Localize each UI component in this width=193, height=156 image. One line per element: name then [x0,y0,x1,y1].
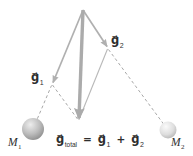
g2-subscript: 2 [120,42,124,49]
equals-sign: = [83,133,92,145]
parallelogram-side-left [53,85,78,119]
vector-g1 [53,10,83,83]
m2-subscript: 2 [181,143,185,151]
label-g1: g⃗1 [31,68,44,86]
g2-symbol: g⃗ [111,33,119,47]
label-m2: M2 [171,137,185,151]
m2-symbol: M [171,136,181,148]
mass-m1-sphere [22,118,44,140]
plus-sign: + [116,133,125,145]
label-g2: g⃗2 [111,31,124,49]
m1-subscript: 1 [18,143,22,151]
equation-g-total: g⃗total = g⃗1 + g⃗2 [56,129,144,149]
g1-symbol: g⃗ [31,70,39,84]
equation-term-g2: g⃗2 [131,129,144,148]
equation-term-g1: g⃗1 [98,129,111,148]
gravitational-field-diagram: g⃗1 g⃗2 M1 M2 g⃗total = g⃗1 + g⃗2 [0,0,193,156]
vector-g2 [83,10,107,47]
m1-symbol: M [8,136,18,148]
vector-g-total [79,10,83,118]
label-m1: M1 [8,137,22,151]
g1-subscript: 1 [40,79,44,86]
parallelogram-side-right [79,49,108,120]
line-of-action-m2 [109,50,169,131]
equation-lhs: g⃗total [56,129,77,149]
